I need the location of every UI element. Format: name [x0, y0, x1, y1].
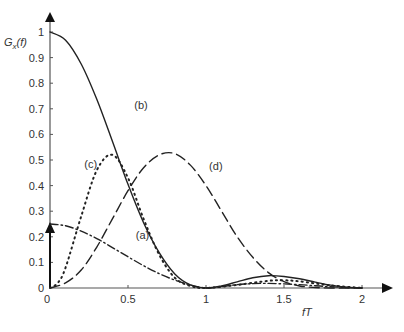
- y-axis-title: Gx(f): [4, 36, 27, 51]
- x-tick-label: 0.5: [120, 293, 135, 305]
- y-tick-label: 0.3: [29, 205, 44, 217]
- x-tick-label: 0: [44, 293, 50, 305]
- x-tick-label: 1: [203, 293, 209, 305]
- y-tick-label: 0.6: [29, 128, 44, 140]
- y-tick-label: 0.8: [29, 77, 44, 89]
- plot-area: 00.10.20.30.40.50.60.70.80.9100.511.52Gx…: [0, 0, 404, 332]
- series-d: [50, 153, 362, 288]
- series-c: [50, 155, 362, 288]
- y-tick-label: 0.1: [29, 256, 44, 268]
- x-tick-label: 2: [359, 293, 365, 305]
- y-axis-arrow-icon: [45, 12, 55, 22]
- annotation-d: (d): [209, 160, 222, 172]
- chart: 00.10.20.30.40.50.60.70.80.9100.511.52Gx…: [0, 0, 404, 332]
- y-tick-label: 0.2: [29, 231, 44, 243]
- x-tick-label: 1.5: [276, 293, 291, 305]
- x-axis-arrow-icon: [382, 283, 393, 293]
- y-tick-label: 0.4: [29, 180, 44, 192]
- series-a: [50, 224, 362, 288]
- y-tick-label: 1: [38, 26, 44, 38]
- annotation-a: (a): [136, 229, 149, 241]
- annotation-c: (c): [84, 158, 97, 170]
- y-tick-label: 0.9: [29, 52, 44, 64]
- annotation-b: (b): [134, 99, 147, 111]
- y-tick-label: 0.7: [29, 103, 44, 115]
- y-tick-label: 0.5: [29, 154, 44, 166]
- x-axis-title: fT: [302, 306, 313, 318]
